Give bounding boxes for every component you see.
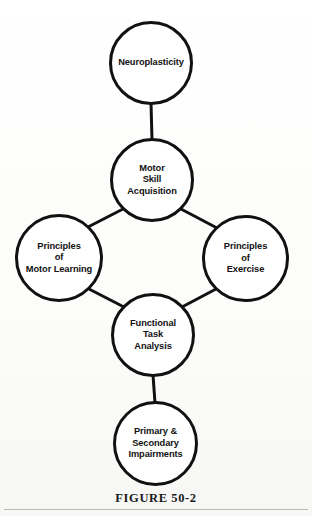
node-primary-and-secondary-impairments: Primary &SecondaryImpairments <box>113 401 198 486</box>
figure-caption: FIGURE 50-2 <box>115 491 196 505</box>
figure-caption-area: FIGURE 50-2 <box>0 488 312 506</box>
node-line-3: Motor Learning <box>26 264 92 274</box>
node-line-2: Secondary <box>132 438 179 448</box>
node-line-3: Exercise <box>227 264 264 274</box>
node-line-3: Impairments <box>128 449 182 459</box>
page-footer-rule <box>4 509 308 510</box>
node-functional-task-analysis-label: FunctionalTaskAnalysis <box>130 318 176 353</box>
node-line-1: Principles <box>224 241 267 251</box>
node-principles-of-motor-learning: PrinciplesofMotor Learning <box>15 214 103 302</box>
node-principles-of-motor-learning-label: PrinciplesofMotor Learning <box>18 241 100 276</box>
node-line-2: of <box>241 253 250 263</box>
node-primary-and-secondary-impairments-label: Primary &SecondaryImpairments <box>128 426 182 461</box>
node-motor-skill-acquisition: MotorSkillAcquisition <box>110 138 194 222</box>
node-line-1: Principles <box>37 241 80 251</box>
node-line-2: Skill <box>143 174 162 184</box>
node-line-2: Task <box>143 329 163 339</box>
node-line-1: Motor <box>139 163 164 173</box>
node-line-3: Acquisition <box>127 186 177 196</box>
edge-neuroplasticity-to-motor-skill <box>151 103 152 140</box>
node-principles-of-exercise: PrinciplesofExercise <box>202 215 289 302</box>
node-line-3: Analysis <box>134 341 171 351</box>
node-neuroplasticity-label: Neuroplasticity <box>118 57 184 69</box>
edge-principles-exercise-to-functional-task <box>182 289 216 307</box>
node-principles-of-exercise-label: PrinciplesofExercise <box>224 241 267 276</box>
node-neuroplasticity: Neuroplasticity <box>109 21 193 105</box>
edge-motor-skill-to-principles-motor-learning <box>88 209 123 227</box>
node-line-2: of <box>55 252 64 262</box>
figure-container: Neuroplasticity MotorSkillAcquisition Pr… <box>0 0 312 516</box>
node-motor-skill-acquisition-label: MotorSkillAcquisition <box>127 163 177 198</box>
edge-motor-skill-to-principles-exercise <box>181 209 217 228</box>
edge-principles-motor-learning-to-functional-task <box>89 289 124 307</box>
node-functional-task-analysis: FunctionalTaskAnalysis <box>111 293 195 377</box>
node-line-1: Primary & <box>134 426 177 436</box>
node-line-1: Functional <box>130 318 176 328</box>
edge-functional-task-to-impairments <box>153 375 155 403</box>
